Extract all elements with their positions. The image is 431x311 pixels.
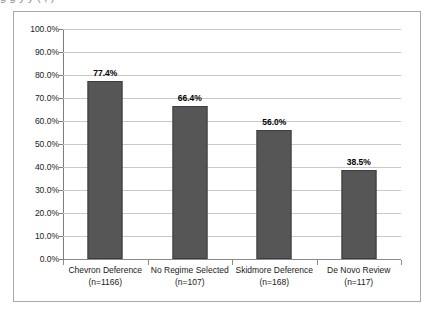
x-axis-category-label: De Novo Review(n=117) bbox=[311, 264, 408, 288]
category-sample-size: (n=117) bbox=[311, 276, 408, 288]
category-name: De Novo Review bbox=[311, 264, 408, 276]
bar[interactable] bbox=[257, 130, 292, 259]
x-axis-category-label: No Regime Selected(n=107) bbox=[142, 264, 239, 288]
x-axis-category-label: Chevron Deference(n=1166) bbox=[57, 264, 154, 288]
figure-frame: 0.0%10.0%20.0%30.0%40.0%50.0%60.0%70.0%8… bbox=[13, 11, 421, 302]
category-sample-size: (n=1166) bbox=[57, 276, 154, 288]
bar-value-label: 56.0% bbox=[262, 117, 286, 127]
bar-value-label: 77.4% bbox=[93, 68, 117, 78]
plot-area: 77.4%66.4%56.0%38.5% bbox=[63, 29, 401, 259]
bar-value-label: 66.4% bbox=[178, 93, 202, 103]
bar[interactable] bbox=[172, 106, 207, 259]
bar-group: 77.4% bbox=[63, 29, 148, 259]
bar-chart: 0.0%10.0%20.0%30.0%40.0%50.0%60.0%70.0%8… bbox=[14, 12, 422, 303]
x-axis-category-label: Skidmore Deference(n=168) bbox=[226, 264, 323, 288]
bar-group: 66.4% bbox=[148, 29, 233, 259]
y-axis-tick-marks bbox=[14, 29, 63, 259]
category-name: Skidmore Deference bbox=[226, 264, 323, 276]
category-name: Chevron Deference bbox=[57, 264, 154, 276]
bar-value-label: 38.5% bbox=[347, 157, 371, 167]
bar[interactable] bbox=[341, 170, 376, 259]
category-sample-size: (n=168) bbox=[226, 276, 323, 288]
clipped-caption-above-figure: g g y y ( , ) bbox=[0, 0, 431, 3]
bar-group: 38.5% bbox=[317, 29, 402, 259]
bar[interactable] bbox=[88, 81, 123, 259]
category-sample-size: (n=107) bbox=[142, 276, 239, 288]
category-name: No Regime Selected bbox=[142, 264, 239, 276]
x-axis-category-labels: Chevron Deference(n=1166)No Regime Selec… bbox=[63, 264, 402, 300]
bar-group: 56.0% bbox=[232, 29, 317, 259]
